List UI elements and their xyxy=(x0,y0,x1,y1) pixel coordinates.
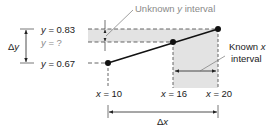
point-x20 xyxy=(215,26,221,32)
label-y-unknown: y = ? xyxy=(40,37,62,48)
known-x-box xyxy=(173,42,218,88)
label-x-left: x = 10 xyxy=(95,88,122,99)
label-known-x-line2: interval xyxy=(231,53,262,64)
label-y-upper: y = 0.83 xyxy=(40,24,75,35)
point-x16 xyxy=(170,39,176,45)
label-unknown-y-interval: Unknown y interval xyxy=(135,3,215,14)
label-delta-y: Δy xyxy=(8,41,20,52)
label-y-lower: y = 0.67 xyxy=(40,58,75,69)
label-known-x-line1: Known x xyxy=(229,41,267,52)
label-x-mid: x = 16 xyxy=(160,88,187,99)
label-delta-x: Δx xyxy=(157,116,169,127)
interpolation-diagram: y = 0.83 y = ? y = 0.67 Δy Unknown y int… xyxy=(0,0,275,137)
point-x10 xyxy=(105,60,111,66)
label-x-right: x = 20 xyxy=(205,88,232,99)
